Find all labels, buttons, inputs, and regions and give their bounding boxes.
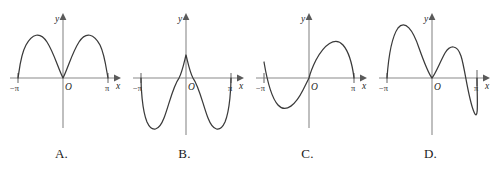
y-axis-label: y [54, 14, 60, 24]
option-d-label: D. [369, 146, 492, 162]
tick-label-pi: π [351, 83, 356, 93]
y-axis-label: y [177, 14, 183, 24]
option-a-plot: y x O −π π [0, 0, 123, 145]
y-axis-arrow-icon [306, 13, 313, 20]
option-a[interactable]: y x O −π π A. [0, 0, 123, 175]
tick-label-pi: π [105, 83, 110, 93]
option-c[interactable]: y x O −π π C. [246, 0, 369, 175]
x-axis-label: x [484, 81, 490, 91]
origin-label: O [65, 82, 72, 92]
origin-label: O [188, 82, 195, 92]
option-c-label: C. [246, 146, 369, 162]
option-d-plot: y x O −π π [369, 0, 492, 145]
y-axis-arrow-icon [429, 13, 436, 20]
tick-label-minus-pi: −π [379, 83, 389, 93]
y-axis-label: y [300, 14, 306, 24]
x-axis-label: x [361, 81, 367, 91]
option-c-plot: y x O −π π [246, 0, 369, 145]
option-b-plot: y x O −π π [123, 0, 246, 145]
y-axis-arrow-icon [60, 13, 67, 20]
option-d[interactable]: y x O −π π D. [369, 0, 492, 175]
option-a-label: A. [0, 146, 123, 162]
origin-label: O [311, 82, 318, 92]
x-axis-label: x [238, 81, 244, 91]
option-b[interactable]: y x O −π π B. [123, 0, 246, 175]
y-axis-label: y [423, 14, 429, 24]
question-figure-sheet: y x O −π π A. y x O −π π [0, 0, 492, 175]
y-axis-arrow-icon [183, 13, 190, 20]
origin-label: O [434, 82, 441, 92]
tick-label-minus-pi: −π [256, 83, 266, 93]
x-axis-label: x [115, 81, 121, 91]
tick-label-minus-pi: −π [10, 83, 20, 93]
option-b-label: B. [123, 146, 246, 162]
